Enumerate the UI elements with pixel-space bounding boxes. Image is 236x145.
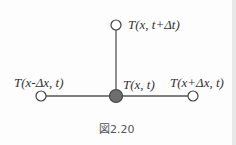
diagram-figure: T(x, t+Δt) T(x-Δx, t) T(x, t) T(x+Δx, t)… [0,0,236,145]
label-center: T(x, t) [123,77,155,93]
node-right [188,91,198,101]
page-edge [232,0,236,145]
label-left: T(x-Δx, t) [14,75,64,91]
node-left [36,91,46,101]
node-top [111,20,121,30]
node-center [110,90,123,103]
figure-caption: 図2.20 [99,120,135,136]
label-top: T(x, t+Δt) [128,17,180,33]
label-right: T(x+Δx, t) [170,75,224,91]
